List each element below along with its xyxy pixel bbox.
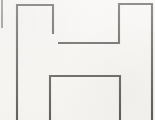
figure-background xyxy=(0,0,155,120)
letter-h-figure: Block letter H outline Hand-traced outli… xyxy=(0,0,155,120)
drawing-canvas: Block letter H outline Hand-traced outli… xyxy=(0,0,155,120)
